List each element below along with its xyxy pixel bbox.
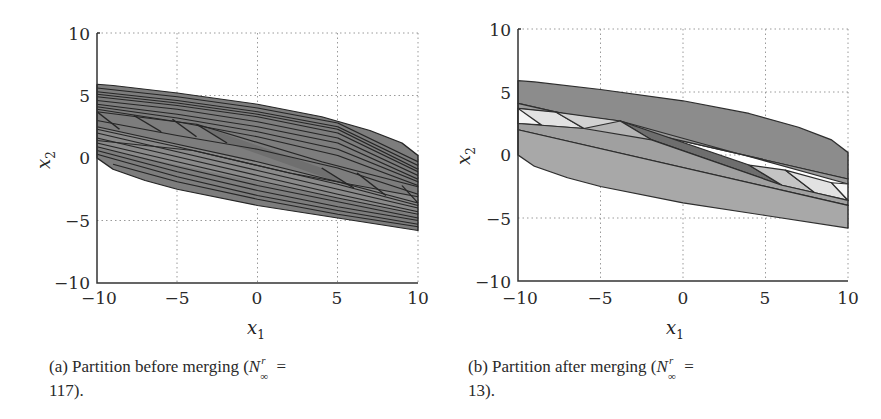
caption-b-text: (b) Partition after merging ( xyxy=(468,357,657,376)
x-axis-label-a-text: x xyxy=(247,317,257,338)
x-axis-label-b: x1 xyxy=(666,317,684,342)
svg-text:5: 5 xyxy=(760,288,771,308)
caption-a: (a) Partition before merging (Nr∞ = 117)… xyxy=(49,355,429,403)
svg-text:0: 0 xyxy=(500,145,511,165)
svg-text:−5: −5 xyxy=(65,211,90,231)
svg-text:−10: −10 xyxy=(81,288,117,308)
x-ticks-b: −10 −5 0 5 10 xyxy=(502,288,859,308)
caption-b: (b) Partition after merging (Nr∞ = 13). xyxy=(468,355,848,403)
svg-text:x2: x2 xyxy=(33,151,58,169)
caption-a-sub: ∞ xyxy=(260,364,268,388)
svg-text:5: 5 xyxy=(332,288,343,308)
x-axis-label-b-text: x xyxy=(666,317,676,338)
svg-text:−10: −10 xyxy=(502,288,538,308)
svg-text:10: 10 xyxy=(407,288,429,308)
svg-text:0: 0 xyxy=(678,288,689,308)
svg-text:5: 5 xyxy=(79,86,90,106)
x-axis-label-a: x1 xyxy=(247,317,265,342)
caption-a-eq: = xyxy=(272,357,286,376)
x-axis-label-b-sub: 1 xyxy=(676,328,684,342)
svg-text:−5: −5 xyxy=(486,209,511,229)
caption-a-symbol: N xyxy=(249,357,260,376)
caption-a-text: (a) Partition before merging ( xyxy=(49,357,249,376)
svg-text:0: 0 xyxy=(252,288,263,308)
caption-b-eq: = xyxy=(680,357,694,376)
x-axis-label-a-sub: 1 xyxy=(257,328,265,342)
figure: 10 5 0 −5 −10 −10 −5 0 5 10 x2 xyxy=(0,0,881,419)
svg-text:x2: x2 xyxy=(453,147,478,165)
svg-text:−5: −5 xyxy=(164,288,189,308)
svg-text:0: 0 xyxy=(79,148,90,168)
svg-text:10: 10 xyxy=(489,20,511,40)
caption-b-sub: ∞ xyxy=(668,364,676,388)
y-ticks-a: 10 5 0 −5 −10 xyxy=(54,24,90,293)
svg-text:10: 10 xyxy=(837,288,859,308)
caption-b-symbol: N xyxy=(657,357,668,376)
svg-text:10: 10 xyxy=(68,24,90,44)
y-axis-label-b: x2 xyxy=(453,147,478,165)
svg-text:5: 5 xyxy=(500,83,511,103)
caption-a-line2: 117). xyxy=(49,379,429,403)
plot-b: 10 5 0 −5 −10 −10 −5 0 5 10 x2 xyxy=(440,0,881,320)
caption-b-line2: 13). xyxy=(468,379,848,403)
y-axis-label-a: x2 xyxy=(33,151,58,169)
x-ticks-a: −10 −5 0 5 10 xyxy=(81,288,429,308)
y-ticks-b: 10 5 0 −5 −10 xyxy=(475,20,511,292)
plot-a: 10 5 0 −5 −10 −10 −5 0 5 10 x2 xyxy=(0,0,440,320)
svg-text:−5: −5 xyxy=(587,288,612,308)
